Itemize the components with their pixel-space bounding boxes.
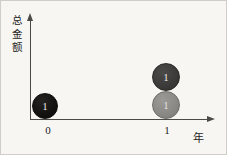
x-axis-arrow-icon — [207, 116, 215, 122]
x-axis-tick-label-1: 1 — [158, 124, 176, 136]
x-axis-tick-label-0: 0 — [39, 124, 57, 136]
y-axis-title: 总金额 — [9, 14, 24, 55]
x-axis-title: 年 — [193, 129, 204, 145]
data-point-year1-lower[interactable]: 1 — [152, 91, 180, 119]
chart-canvas: 总金额 年 0 1 1 1 1 — [0, 0, 227, 155]
data-point-year0[interactable]: 1 — [32, 93, 58, 119]
y-axis-arrow-icon — [27, 13, 33, 21]
x-axis-line — [30, 119, 210, 120]
data-point-year1-upper[interactable]: 1 — [152, 63, 180, 91]
